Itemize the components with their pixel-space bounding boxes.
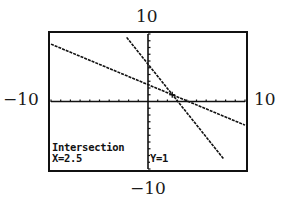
xmin-label: −10 [3, 91, 39, 108]
x-readout: X=2.5 [52, 153, 82, 164]
calculator-screen: Intersection X=2.5 Y=1 [48, 31, 248, 172]
y-readout: Y=1 [150, 153, 168, 164]
ymin-label: −10 [130, 180, 166, 197]
xmax-label: 10 [254, 91, 276, 108]
ymax-label: 10 [136, 8, 158, 25]
intersection-title: Intersection [52, 142, 124, 153]
